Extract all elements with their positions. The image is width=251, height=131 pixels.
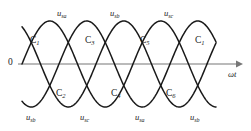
crossing-label-C1: C1 — [195, 36, 205, 46]
label-subscript: sb — [30, 117, 35, 123]
label-subscript: 5 — [146, 39, 149, 46]
label-subscript: 2 — [62, 92, 65, 99]
crossing-label-C3: C3 — [85, 36, 95, 46]
crossing-label-C4: C4 — [111, 89, 121, 99]
axis-arrowhead — [236, 61, 243, 68]
axis-group — [18, 61, 243, 68]
wave-label-top-usa: usa — [57, 9, 67, 18]
label-subscript: sa — [139, 117, 144, 123]
axis-label-omega-t: ωt — [228, 70, 236, 79]
label-subscript: 1 — [36, 39, 39, 46]
label-subscript: sc — [84, 117, 89, 123]
label-subscript: 4 — [117, 92, 120, 99]
label-subscript: sb — [194, 117, 199, 123]
label-subscript: 3 — [91, 39, 94, 46]
origin-label: 0 — [8, 58, 13, 68]
wave-label-top-usc: usc — [164, 9, 173, 18]
wave-label-bottom-usc: usc — [80, 113, 89, 122]
crossing-label-C5: C5 — [140, 36, 150, 46]
label-subscript: sb — [114, 13, 119, 19]
crossing-label-C6: C6 — [166, 89, 176, 99]
wave-label-top-usb: usb — [110, 9, 120, 18]
crossing-label-C2: C2 — [56, 89, 66, 99]
waveform-canvas — [0, 0, 251, 131]
three-phase-waveform-figure: 0 ωt usausbuscusbuscusausbC1C3C5C1C2C4C6 — [0, 0, 251, 131]
wave-label-bottom-usb: usb — [190, 113, 200, 122]
wave-label-bottom-usb: usb — [26, 113, 36, 122]
label-subscript: 6 — [172, 92, 175, 99]
label-subscript: sa — [61, 13, 66, 19]
label-subscript: 1 — [201, 39, 204, 46]
wave-label-bottom-usa: usa — [135, 113, 145, 122]
crossing-label-C1: C1 — [30, 36, 40, 46]
label-subscript: sc — [168, 13, 173, 19]
